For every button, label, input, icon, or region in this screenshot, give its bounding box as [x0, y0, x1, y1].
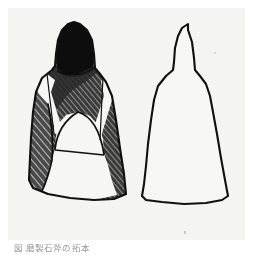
paper-speck [214, 52, 216, 54]
figure-left-shaded [29, 22, 126, 200]
figure-caption: 図 磨製石斧の拓本 [14, 243, 90, 253]
figure-right-shape [142, 24, 228, 204]
caption-zone: 図 磨製石斧の拓本 [0, 243, 253, 259]
paper-speck [184, 231, 186, 234]
plate-field [8, 8, 245, 240]
artifact-illustration [8, 8, 245, 240]
figure-plate: 図 磨製石斧の拓本 [0, 0, 253, 259]
figure-right-outline [142, 24, 228, 204]
